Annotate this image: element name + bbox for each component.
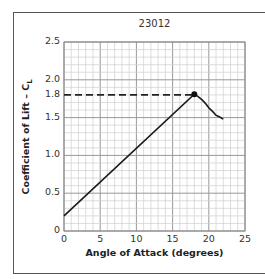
x-tick-label: 0 bbox=[54, 233, 74, 244]
y-tick-label: 1.8 bbox=[34, 88, 60, 99]
y-tick-label: 1.5 bbox=[34, 111, 60, 122]
x-tick-label: 20 bbox=[199, 233, 219, 244]
x-axis-label: Angle of Attack (degrees) bbox=[64, 247, 245, 258]
x-tick-label: 25 bbox=[235, 233, 255, 244]
x-tick-label: 5 bbox=[90, 233, 110, 244]
x-tick-label: 15 bbox=[163, 233, 183, 244]
max-cl-marker bbox=[191, 91, 197, 97]
y-tick-label: 0.5 bbox=[34, 186, 60, 197]
y-tick-label: 2.5 bbox=[34, 35, 60, 46]
y-tick-label: 1.0 bbox=[34, 148, 60, 159]
y-axis-label: Coefficient of Lift – CL bbox=[20, 62, 34, 212]
x-tick-label: 10 bbox=[126, 233, 146, 244]
plot-border bbox=[64, 42, 245, 231]
y-tick-label: 2.0 bbox=[34, 73, 60, 84]
